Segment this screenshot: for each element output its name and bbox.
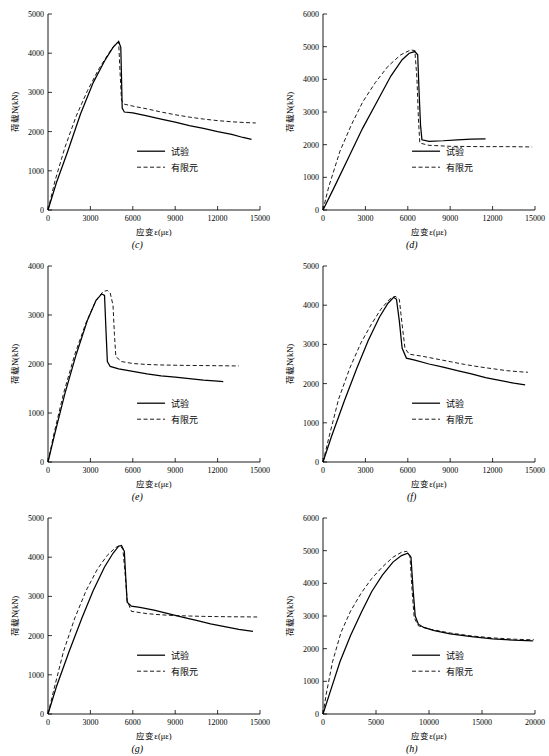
x-axis-label: 应变ε(με) (136, 479, 172, 489)
chart-panel-f: 0300060009000120001500001000200030004000… (275, 252, 549, 504)
x-tick-label: 0 (46, 466, 50, 475)
series-line-2 (323, 296, 528, 462)
x-tick-label: 9000 (442, 214, 458, 223)
panel-caption-f: (f) (275, 491, 549, 502)
y-tick-label: 1000 (303, 173, 319, 182)
x-tick-label: 6000 (399, 466, 415, 475)
x-tick-label: 3000 (82, 214, 98, 223)
x-tick-label: 12000 (482, 214, 502, 223)
chart-svg: 0300060009000120001500001000200030004000… (275, 0, 549, 252)
panel-cell-h: 0500010000150002000001000200030004000500… (275, 504, 549, 756)
x-tick-label: 12000 (208, 214, 228, 223)
y-tick-label: 3000 (303, 612, 319, 621)
y-tick-label: 5000 (303, 547, 319, 556)
x-axis-label: 应变ε(με) (411, 227, 447, 237)
series-line-1 (323, 52, 486, 210)
x-tick-label: 6000 (125, 718, 141, 727)
series-line-2 (48, 291, 239, 463)
y-tick-label: 0 (315, 206, 319, 215)
x-tick-label: 9000 (167, 466, 183, 475)
legend-label-2: 有限元 (171, 162, 198, 173)
x-tick-label: 5000 (368, 718, 384, 727)
y-axis-label: 荷载N(kN) (10, 596, 20, 636)
legend-label-2: 有限元 (446, 666, 473, 677)
x-tick-label: 15000 (250, 466, 270, 475)
chart-panel-g: 0300060009000120001500001000200030004000… (0, 504, 275, 756)
panel-cell-e: 0300060009000120001500001000200030004000… (0, 252, 275, 504)
panel-cell-c: 0300060009000120001500001000200030004000… (0, 0, 275, 252)
legend-label-1: 试验 (171, 398, 189, 409)
y-tick-label: 1000 (303, 677, 319, 686)
series-line-1 (48, 294, 223, 462)
x-tick-label: 15000 (525, 214, 545, 223)
y-tick-label: 0 (315, 710, 319, 719)
x-tick-label: 15000 (525, 466, 545, 475)
y-tick-label: 4000 (28, 553, 44, 562)
legend-label-2: 有限元 (446, 414, 473, 425)
chart-svg: 0500010000150002000001000200030004000500… (275, 504, 549, 756)
y-tick-label: 2000 (303, 141, 319, 150)
y-tick-label: 5000 (303, 43, 319, 52)
series-line-2 (48, 42, 256, 210)
x-tick-label: 0 (321, 466, 325, 475)
y-axis-label: 荷载N(kN) (10, 344, 20, 384)
y-tick-label: 4000 (303, 579, 319, 588)
y-tick-label: 3000 (303, 340, 319, 349)
panel-caption-h: (h) (275, 743, 549, 754)
chart-svg: 0300060009000120001500001000200030004000… (0, 504, 274, 756)
series-line-2 (48, 545, 257, 714)
x-axis-label: 应变ε(με) (411, 479, 447, 489)
legend-label-2: 有限元 (446, 162, 473, 173)
x-tick-label: 9000 (167, 718, 183, 727)
x-tick-label: 3000 (82, 718, 98, 727)
y-tick-label: 3000 (303, 108, 319, 117)
x-tick-label: 0 (46, 214, 50, 223)
y-tick-label: 5000 (28, 514, 44, 523)
panel-caption-c: (c) (0, 239, 275, 250)
y-tick-label: 2000 (28, 128, 44, 137)
x-tick-label: 6000 (125, 214, 141, 223)
y-tick-label: 0 (40, 206, 44, 215)
y-tick-label: 4000 (28, 262, 44, 271)
y-tick-label: 3000 (28, 311, 44, 320)
x-tick-label: 0 (46, 718, 50, 727)
y-axis-label: 荷载N(kN) (285, 596, 295, 636)
x-tick-label: 3000 (357, 214, 373, 223)
y-tick-label: 2000 (303, 645, 319, 654)
legend-label-1: 试验 (171, 650, 189, 661)
chart-svg: 0300060009000120001500001000200030004000… (275, 252, 549, 504)
y-tick-label: 2000 (28, 360, 44, 369)
legend-label-2: 有限元 (171, 666, 198, 677)
x-tick-label: 12000 (482, 466, 502, 475)
x-tick-label: 15000 (250, 214, 270, 223)
x-axis-label: 应变ε(με) (136, 227, 172, 237)
y-tick-label: 6000 (303, 514, 319, 523)
y-tick-label: 3000 (28, 88, 44, 97)
y-axis-label: 荷载N(kN) (10, 92, 20, 132)
y-tick-label: 0 (315, 458, 319, 467)
panel-cell-g: 0300060009000120001500001000200030004000… (0, 504, 275, 756)
legend-label-1: 试验 (446, 650, 464, 661)
series-line-1 (323, 553, 533, 714)
x-tick-label: 6000 (399, 214, 415, 223)
y-tick-label: 4000 (28, 49, 44, 58)
y-tick-label: 2000 (303, 380, 319, 389)
x-tick-label: 15000 (250, 718, 270, 727)
chart-svg: 0300060009000120001500001000200030004000… (0, 0, 274, 252)
y-tick-label: 4000 (303, 301, 319, 310)
x-tick-label: 9000 (167, 214, 183, 223)
series-line-2 (323, 50, 532, 210)
x-tick-label: 6000 (125, 466, 141, 475)
y-tick-label: 3000 (28, 592, 44, 601)
x-tick-label: 15000 (472, 718, 492, 727)
series-line-1 (323, 297, 525, 462)
y-tick-label: 1000 (28, 167, 44, 176)
chart-svg: 0300060009000120001500001000200030004000… (0, 252, 274, 504)
y-tick-label: 0 (40, 710, 44, 719)
x-tick-label: 12000 (208, 718, 228, 727)
y-tick-label: 2000 (28, 632, 44, 641)
y-tick-label: 1000 (28, 671, 44, 680)
legend-label-1: 试验 (446, 398, 464, 409)
y-tick-label: 1000 (303, 419, 319, 428)
chart-panel-d: 0300060009000120001500001000200030004000… (275, 0, 549, 252)
